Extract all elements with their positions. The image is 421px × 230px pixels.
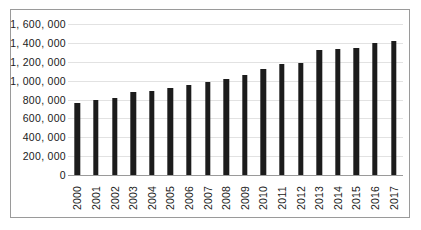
axis-baseline — [68, 175, 403, 176]
y-tick-label: 200, 000 — [6, 151, 66, 162]
bar[interactable] — [112, 98, 117, 175]
bar-slot — [124, 24, 143, 175]
x-tick-slot: 2009 — [236, 177, 255, 223]
x-tick-slot: 2001 — [87, 177, 106, 223]
bar[interactable] — [186, 85, 191, 175]
bar[interactable] — [298, 63, 303, 175]
x-tick-label: 2007 — [202, 186, 213, 210]
x-tick-slot: 2017 — [384, 177, 403, 223]
x-tick-label: 2016 — [370, 186, 381, 210]
bar[interactable] — [261, 69, 266, 175]
bar-slot — [142, 24, 161, 175]
x-tick-label: 2010 — [258, 186, 269, 210]
x-tick-slot: 2016 — [366, 177, 385, 223]
x-tick-slot: 2008 — [217, 177, 236, 223]
x-tick-label: 2009 — [240, 186, 251, 210]
y-tick-label: 600, 000 — [6, 113, 66, 124]
bar[interactable] — [168, 88, 173, 175]
x-axis: 2000200120022003200420052006200720082009… — [68, 177, 403, 227]
bar[interactable] — [279, 64, 284, 175]
x-tick-label: 2005 — [165, 186, 176, 210]
bar-slot — [161, 24, 180, 175]
x-tick-label: 2006 — [184, 186, 195, 210]
x-tick-label: 2001 — [91, 186, 102, 210]
bar-slot — [217, 24, 236, 175]
y-tick-label: 1, 400, 000 — [6, 38, 66, 49]
y-tick-label: 1, 200, 000 — [6, 57, 66, 68]
bar[interactable] — [391, 41, 396, 175]
bar[interactable] — [205, 82, 210, 175]
y-tick-label: 800, 000 — [6, 94, 66, 105]
x-tick-label: 2013 — [314, 186, 325, 210]
x-tick-slot: 2007 — [198, 177, 217, 223]
bar[interactable] — [130, 92, 135, 175]
x-tick-slot: 2010 — [254, 177, 273, 223]
bar-slot — [291, 24, 310, 175]
y-tick-label: 1, 000, 000 — [6, 75, 66, 86]
bar-slot — [273, 24, 292, 175]
x-tick-slot: 2002 — [105, 177, 124, 223]
bar[interactable] — [93, 100, 98, 175]
x-tick-slot: 2006 — [180, 177, 199, 223]
bar-slot — [366, 24, 385, 175]
plot-area — [68, 24, 403, 175]
bar[interactable] — [242, 75, 247, 176]
y-tick-label: 400, 000 — [6, 132, 66, 143]
bar-slot — [254, 24, 273, 175]
x-tick-label: 2008 — [221, 186, 232, 210]
bar-slot — [384, 24, 403, 175]
y-axis: 0200, 000400, 000600, 000800, 0001, 000,… — [6, 0, 66, 230]
bar-slot — [180, 24, 199, 175]
x-tick-label: 2014 — [333, 186, 344, 210]
x-tick-slot: 2013 — [310, 177, 329, 223]
y-tick-label: 0 — [6, 170, 66, 181]
x-tick-label: 2012 — [295, 186, 306, 210]
bar-slot — [347, 24, 366, 175]
x-tick-slot: 2000 — [68, 177, 87, 223]
bar-slot — [105, 24, 124, 175]
y-tick-label: 1, 600, 000 — [6, 19, 66, 30]
bar-slot — [198, 24, 217, 175]
bar[interactable] — [149, 91, 154, 175]
x-tick-label: 2011 — [277, 186, 288, 209]
x-tick-label: 2003 — [128, 186, 139, 210]
bar[interactable] — [372, 43, 377, 175]
x-tick-label: 2017 — [388, 186, 399, 210]
bar-slot — [87, 24, 106, 175]
x-tick-slot: 2004 — [142, 177, 161, 223]
bar[interactable] — [317, 50, 322, 175]
x-tick-label: 2000 — [72, 186, 83, 210]
x-tick-label: 2002 — [109, 186, 120, 210]
bar[interactable] — [223, 79, 228, 175]
bar[interactable] — [75, 103, 80, 175]
bar[interactable] — [354, 48, 359, 175]
bar-slot — [236, 24, 255, 175]
x-tick-slot: 2015 — [347, 177, 366, 223]
bar[interactable] — [335, 49, 340, 175]
x-tick-slot: 2011 — [273, 177, 292, 223]
x-tick-slot: 2005 — [161, 177, 180, 223]
x-tick-label: 2004 — [146, 186, 157, 210]
x-tick-label: 2015 — [351, 186, 362, 210]
bar-slot — [310, 24, 329, 175]
bar-slot — [329, 24, 348, 175]
x-tick-slot: 2012 — [291, 177, 310, 223]
bar-slot — [68, 24, 87, 175]
x-tick-slot: 2003 — [124, 177, 143, 223]
x-tick-slot: 2014 — [329, 177, 348, 223]
